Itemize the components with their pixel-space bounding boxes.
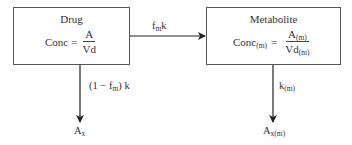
metabolite-eq-fraction: A(m) Vd(m) [283, 28, 311, 55]
drug-title: Drug [14, 13, 129, 25]
drug-eq-denominator: Vd [82, 43, 95, 55]
drug-eq-numerator: A [85, 28, 93, 40]
drug-concentration-equation: Conc = A Vd [45, 28, 98, 55]
label-k-m: k(m) [279, 80, 295, 91]
label-fm-k: fmk [152, 20, 167, 31]
metabolite-eq-equals: = [271, 36, 277, 48]
drug-compartment: Drug Conc = A Vd [13, 7, 130, 65]
metabolite-concentration-equation: Conc(m) = A(m) Vd(m) [233, 28, 312, 55]
sink-metabolite-excreted: Ax(m) [263, 125, 285, 136]
sink-drug-excreted: Ax [74, 125, 85, 136]
metabolite-eq-numerator: A(m) [288, 28, 307, 40]
metabolite-title: Metabolite [207, 13, 340, 25]
metabolite-eq-lhs: Conc(m) [233, 36, 267, 48]
metabolite-eq-denominator: Vd(m) [285, 43, 309, 55]
drug-eq-fraction: A Vd [80, 28, 97, 55]
metabolite-compartment: Metabolite Conc(m) = A(m) Vd(m) [206, 7, 341, 65]
label-one-minus-fm-k: (1 − fm) k [89, 80, 130, 91]
drug-eq-equals: = [71, 36, 77, 48]
drug-eq-lhs: Conc [45, 36, 68, 48]
